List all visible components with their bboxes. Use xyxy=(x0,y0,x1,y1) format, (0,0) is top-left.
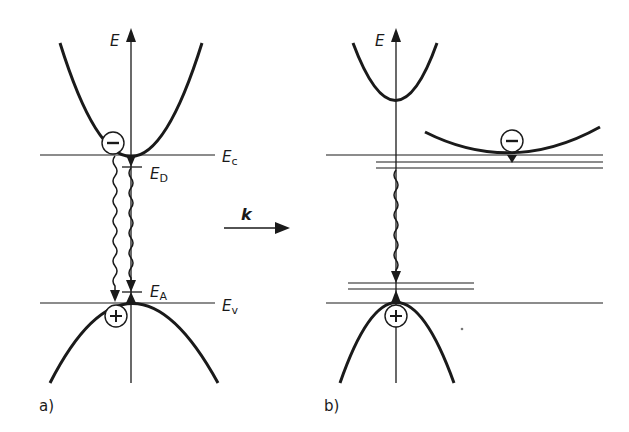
arrowhead-right-icon xyxy=(275,222,290,234)
transition-arrowhead-icon xyxy=(110,290,120,302)
label-ec: Ec xyxy=(222,148,238,168)
label-ea: EA xyxy=(150,283,167,303)
axis-label-e: E xyxy=(375,32,385,50)
acceptor-marker-icon xyxy=(391,290,401,303)
panel-label-a: a) xyxy=(39,397,54,415)
hole-icon xyxy=(105,305,127,327)
transition-arrowhead-icon xyxy=(126,280,136,292)
transition-arrowhead-icon xyxy=(391,271,401,283)
print-speck xyxy=(461,328,464,331)
panel-label-b: b) xyxy=(324,397,339,415)
axis-label-e: E xyxy=(110,32,120,50)
band-diagram: E Ec ED EA Ev xyxy=(0,0,629,432)
donor-marker-icon xyxy=(126,155,136,167)
panel-b: E b) xyxy=(324,28,603,415)
direct-conduction-valley xyxy=(353,43,437,101)
electron-icon xyxy=(501,130,523,152)
label-ed: ED xyxy=(150,165,168,185)
k-label: k xyxy=(241,205,253,224)
axis-arrowhead-icon xyxy=(391,28,401,42)
hole-icon xyxy=(385,305,407,327)
axis-arrowhead-icon xyxy=(126,28,136,42)
label-ev: Ev xyxy=(222,297,238,317)
photon-transition-band-to-band xyxy=(113,156,117,290)
valence-band-curve xyxy=(50,304,218,384)
electron-icon xyxy=(102,132,124,154)
panel-a: E Ec ED EA Ev xyxy=(39,28,238,415)
k-direction-arrow: k xyxy=(224,205,290,234)
acceptor-marker-icon xyxy=(126,292,136,303)
